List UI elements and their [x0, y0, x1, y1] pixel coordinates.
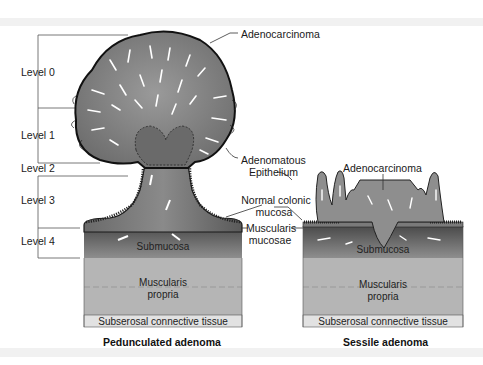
adenomatous-label-2: Epithelium — [249, 166, 298, 178]
level-4-label: Level 4 — [21, 235, 55, 247]
sessile-caption: Sessile adenoma — [343, 336, 428, 348]
adenocarcinoma-label: Adenocarcinoma — [241, 28, 320, 40]
pedunculated-caption: Pedunculated adenoma — [103, 336, 221, 348]
adenomatous-label-1: Adenomatous — [241, 154, 306, 166]
level-2-label: Level 2 — [21, 162, 55, 174]
sessile-adenocarcinoma-label: Adenocarcinoma — [343, 162, 422, 174]
sessile-muscularis-label-1: Muscularis — [303, 279, 463, 291]
normal-mucosa-label-1: Normal colonic — [236, 194, 316, 206]
pedunculated-muscularis-label-2: propria — [84, 289, 242, 301]
sessile-subserosal-label: Subserosal connective tissue — [303, 316, 463, 328]
pedunculated-muscularis-label-1: Muscularis — [84, 277, 242, 289]
muscularis-mucosae-label-2: mucosae — [246, 234, 294, 246]
level-0-label: Level 0 — [21, 66, 55, 78]
muscularis-mucosae-label-1: Muscularis — [246, 222, 294, 234]
sessile-submucosa-label: Submucosa — [303, 244, 463, 256]
diagram-graphics — [0, 0, 483, 365]
level-3-label: Level 3 — [21, 194, 55, 206]
pedunculated-submucosa-label: Submucosa — [84, 241, 242, 253]
normal-mucosa-label-2: mucosa — [236, 206, 312, 218]
level-1-label: Level 1 — [21, 129, 55, 141]
sessile-muscularis-label-2: propria — [303, 291, 463, 303]
stalk — [84, 165, 242, 232]
pedunculated-subserosal-label: Subserosal connective tissue — [84, 316, 242, 328]
